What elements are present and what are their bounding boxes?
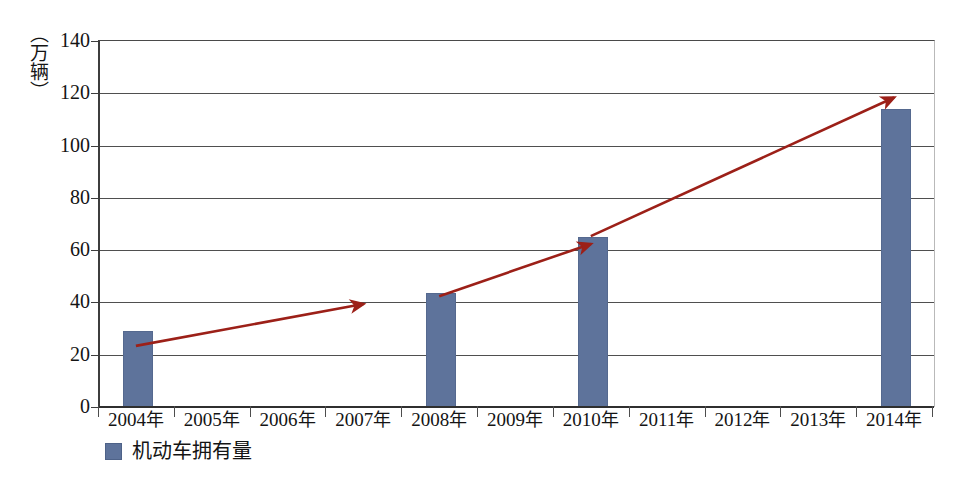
y-axis-tickmark [91,198,100,199]
x-axis-tick-label: 2010年 [563,409,619,431]
x-axis-tick-label: 2005年 [184,409,240,431]
bar [578,237,608,407]
bar [123,331,153,407]
gridline [100,93,934,94]
y-axis-tickmark [91,302,100,303]
y-axis-tick-labels: 020406080100120140 [44,0,90,486]
y-axis-tick-label: 0 [46,396,90,416]
x-axis-tick-label: 2004年 [108,409,164,431]
x-axis-tickmark [780,406,781,417]
y-axis-tickmark [91,41,100,42]
x-axis-baseline [98,406,934,408]
y-axis-tick-label: 20 [46,344,90,364]
plot-area [98,40,935,407]
x-axis-tickmark [553,406,554,417]
x-axis-tick-label: 2006年 [260,409,316,431]
y-axis-tickmark [91,93,100,94]
x-axis-tick-label: 2012年 [714,409,770,431]
gridline [100,302,934,303]
x-axis-tickmark [856,406,857,417]
x-axis-tickmark [98,406,99,417]
x-axis-tickmark [477,406,478,417]
gridline [100,146,934,147]
y-axis-tick-label: 100 [46,135,90,155]
legend-label-motor-vehicle-ownership: 机动车拥有量 [132,440,252,462]
x-axis-tickmark [401,406,402,417]
x-axis-tick-label: 2013年 [790,409,846,431]
y-axis-tick-label: 80 [46,187,90,207]
gridline [100,198,934,199]
y-axis-tickmark [91,146,100,147]
y-axis-tick-label: 60 [46,239,90,259]
gridline [100,250,934,251]
bar [426,293,456,407]
x-axis-tick-label: 2008年 [411,409,467,431]
y-axis-tickmark [91,355,100,356]
x-axis-tickmark [932,406,933,417]
y-axis-tick-label: 120 [46,82,90,102]
y-axis-tick-label: 40 [46,291,90,311]
x-axis-tickmark [325,406,326,417]
x-axis-tickmark [174,406,175,417]
x-axis-tickmark [629,406,630,417]
bar-chart: （万辆） 020406080100120140 2004年2005年2006年2… [0,0,971,486]
bar [881,109,911,407]
legend: 机动车拥有量 [105,440,252,462]
y-axis-tick-label: 140 [46,30,90,50]
x-axis-tick-label: 2009年 [487,409,543,431]
y-axis-tickmark [91,250,100,251]
x-axis-tick-label: 2007年 [335,409,391,431]
x-axis-tickmark [250,406,251,417]
x-axis-tick-label: 2011年 [639,409,694,431]
legend-swatch-motor-vehicle-ownership [105,443,122,460]
gridline [100,355,934,356]
x-axis-tickmark [705,406,706,417]
x-axis-tick-label: 2014年 [866,409,922,431]
